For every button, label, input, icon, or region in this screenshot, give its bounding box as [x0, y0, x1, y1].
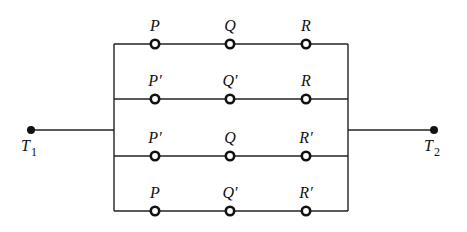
switch-node-p: [151, 207, 159, 215]
switch-node-p: [151, 40, 159, 48]
terminal-2-subscript: 2: [434, 145, 440, 159]
switch-node-r: [302, 40, 310, 48]
switch-node-r-prime: [302, 207, 310, 215]
switch-label: R′: [298, 184, 313, 201]
switch-node-p-prime: [151, 152, 159, 160]
switch-node-r: [302, 95, 310, 103]
switch-node-q: [226, 40, 234, 48]
switch-node-q-prime: [226, 95, 234, 103]
switch-label: R: [300, 72, 311, 89]
switch-node-p-prime: [151, 95, 159, 103]
switch-node-q: [226, 152, 234, 160]
switch-label: Q′: [222, 72, 238, 89]
switch-label: Q′: [222, 184, 238, 201]
switch-label: P′: [147, 129, 162, 146]
switch-label: R: [300, 17, 311, 34]
switch-label: P: [149, 17, 160, 34]
terminal-2-dot: [430, 126, 438, 134]
switch-label: R′: [298, 129, 313, 146]
terminal-1-subscript: 1: [31, 145, 37, 159]
switching-circuit-diagram: T1T2PQRP′Q′RP′QR′PQ′R′: [0, 0, 467, 232]
switch-label: Q: [224, 17, 236, 34]
switch-node-q-prime: [226, 207, 234, 215]
switch-label: P: [149, 184, 160, 201]
switch-label: P′: [147, 72, 162, 89]
switch-label: Q: [224, 129, 236, 146]
terminal-1-dot: [27, 126, 35, 134]
switch-node-r-prime: [302, 152, 310, 160]
terminal-1-label: T: [21, 137, 31, 154]
terminal-2-label: T: [424, 137, 434, 154]
